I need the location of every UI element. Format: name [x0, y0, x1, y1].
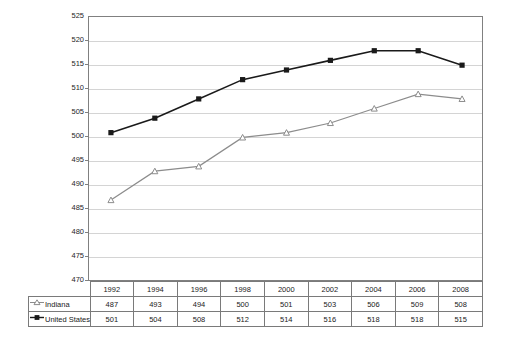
table-header-year: 2004 [352, 282, 396, 297]
table-cell: 515 [439, 312, 483, 327]
data-point-marker [328, 58, 333, 63]
table-cell: 501 [90, 312, 134, 327]
y-axis-tick-label: 495 [44, 156, 84, 164]
table-cell: 506 [352, 297, 396, 312]
table-cell: 493 [134, 297, 178, 312]
table-cell: 503 [308, 297, 352, 312]
table-cell: 516 [308, 312, 352, 327]
table-header-corner [29, 282, 91, 297]
legend-label-indiana: Indiana [45, 300, 70, 309]
y-axis-tick-label: 485 [44, 204, 84, 212]
data-point-marker [459, 63, 464, 68]
y-axis-tick-label: 480 [44, 228, 84, 236]
table-row: Indiana 487 493 494 500 501 503 506 509 … [29, 297, 483, 312]
data-point-marker [284, 67, 289, 72]
y-axis-tick-label: 520 [44, 36, 84, 44]
table-header-year: 2002 [308, 282, 352, 297]
y-axis-tick-label: 505 [44, 108, 84, 116]
table-header-year: 1992 [90, 282, 134, 297]
y-axis-tick-label: 515 [44, 60, 84, 68]
table-cell: 509 [395, 297, 439, 312]
line-chart-figure: 525 520 515 510 505 500 495 490 485 480 … [0, 0, 509, 351]
series-plot [89, 17, 484, 282]
table-header-year: 1998 [221, 282, 265, 297]
table-row: United States 501 504 508 512 514 516 51… [29, 312, 483, 327]
data-table: 1992 1994 1996 1998 2000 2002 2004 2006 … [28, 281, 483, 327]
markers-indiana [108, 91, 465, 203]
table-header-year: 2000 [264, 282, 308, 297]
table-cell: 518 [395, 312, 439, 327]
table-header-year: 1994 [134, 282, 178, 297]
table-header-row: 1992 1994 1996 1998 2000 2002 2004 2006 … [29, 282, 483, 297]
table-cell: 508 [177, 312, 221, 327]
data-point-marker [196, 96, 201, 101]
data-point-marker [240, 77, 245, 82]
y-axis-tick-label: 475 [44, 252, 84, 260]
table-cell: 500 [221, 297, 265, 312]
y-axis-tick-label: 525 [44, 12, 84, 20]
legend-item-united-states: United States [29, 312, 91, 327]
data-point-marker [108, 130, 113, 135]
y-axis-tick-label: 510 [44, 84, 84, 92]
data-point-marker [108, 197, 114, 203]
filled-square-marker-icon [30, 312, 44, 325]
legend-item-indiana: Indiana [29, 297, 91, 312]
table-header-year: 2006 [395, 282, 439, 297]
table-header-year: 2008 [439, 282, 483, 297]
legend-label-united-states: United States [45, 315, 90, 324]
data-point-marker [372, 48, 377, 53]
table-header-year: 1996 [177, 282, 221, 297]
table-cell: 518 [352, 312, 396, 327]
plot-area [88, 16, 483, 281]
data-point-marker [152, 116, 157, 121]
table-cell: 501 [264, 297, 308, 312]
table-cell: 504 [134, 312, 178, 327]
table-cell: 512 [221, 312, 265, 327]
line-series-united-states [111, 51, 462, 133]
data-point-marker [416, 48, 421, 53]
table-cell: 487 [90, 297, 134, 312]
table-cell: 494 [177, 297, 221, 312]
open-triangle-marker-icon [30, 297, 44, 310]
table-cell: 514 [264, 312, 308, 327]
table-cell: 508 [439, 297, 483, 312]
markers-united-states [108, 48, 464, 135]
line-series-indiana [111, 94, 462, 200]
y-axis-tick-label: 500 [44, 132, 84, 140]
y-axis-tick-label: 490 [44, 180, 84, 188]
